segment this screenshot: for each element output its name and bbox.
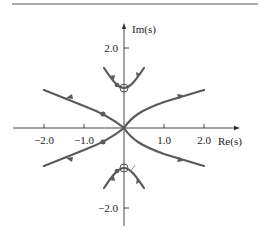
branch-upper-left [44, 90, 124, 128]
x-tick-label: 1.0 [157, 134, 171, 146]
x-axis-arrow-icon [234, 126, 240, 130]
root-locus-chart: −2.0 −1.0 1.0 2.0 2.0 −2.0 Re(s) Im(s) [0, 0, 260, 236]
y-tick-label: −2.0 [98, 202, 118, 214]
x-axis-label: Re(s) [218, 135, 242, 148]
y-tick-label: 2.0 [104, 42, 118, 54]
x-tick-label: −2.0 [34, 134, 54, 146]
x-tick-label: 2.0 [197, 134, 211, 146]
y-axis-label: Im(s) [132, 23, 156, 36]
y-axis-arrow-icon [122, 23, 126, 29]
x-tick-label: −1.0 [74, 134, 94, 146]
branch-upper-right [124, 90, 204, 128]
